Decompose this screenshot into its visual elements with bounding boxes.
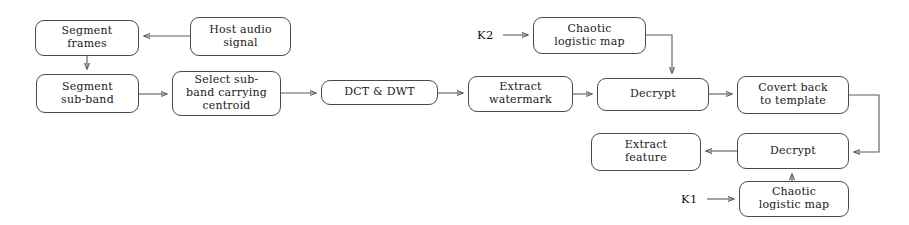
node-decrypt-bottom-label: Decrypt [770,145,816,158]
node-select-sub-band-label: Select sub- band carrying centroid [186,74,267,113]
node-decrypt-bottom[interactable]: Decrypt [737,133,849,169]
node-dct-dwt[interactable]: DCT & DWT [321,80,438,105]
node-chaotic-logistic-map-bottom[interactable]: Chaotic logistic map [739,181,849,217]
node-segment-frames[interactable]: Segment frames [35,20,139,56]
key-label-k1: K1 [681,192,698,206]
node-decrypt-top-label: Decrypt [630,88,676,101]
node-host-audio-signal-label: Host audio signal [209,24,272,50]
node-chaotic-logistic-map-top[interactable]: Chaotic logistic map [533,17,646,54]
flowchart-canvas: Segment frames Host audio signal Segment… [0,0,909,225]
edge-covert-back-to-decrypt-bottom [849,95,879,152]
node-segment-sub-band[interactable]: Segment sub-band [36,74,139,113]
node-extract-feature-label: Extract feature [625,139,667,165]
node-chaotic-logistic-map-bottom-label: Chaotic logistic map [759,186,829,212]
node-decrypt-top[interactable]: Decrypt [597,78,709,111]
node-host-audio-signal[interactable]: Host audio signal [190,17,291,56]
node-covert-back-to-template[interactable]: Covert back to template [737,76,849,114]
node-extract-watermark-label: Extract watermark [489,81,552,107]
node-covert-back-label: Covert back to template [758,82,828,108]
key-label-k2: K2 [477,28,494,42]
node-extract-watermark[interactable]: Extract watermark [468,76,573,112]
node-chaotic-logistic-map-top-label: Chaotic logistic map [554,23,624,49]
node-segment-sub-band-label: Segment sub-band [61,81,114,107]
node-select-sub-band-carrying-centroid[interactable]: Select sub- band carrying centroid [172,71,281,116]
node-dct-dwt-label: DCT & DWT [344,86,415,99]
edge-chaotic-map-top-to-decrypt-top [646,35,672,73]
node-segment-frames-label: Segment frames [62,25,113,51]
node-extract-feature[interactable]: Extract feature [591,133,701,171]
